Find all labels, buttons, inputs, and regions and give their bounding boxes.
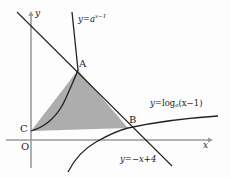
logarithm-equation-label: y=loga(x−1) (150, 99, 202, 109)
y-axis-label: y (35, 9, 40, 18)
log-eq-fn: log (162, 98, 175, 108)
exponential-equation-label: y=ax−1 (78, 14, 106, 24)
figure-canvas (0, 0, 230, 178)
log-eq-argument: (x−1) (179, 98, 203, 108)
log-eq-equals: = (155, 98, 162, 108)
point-label-a: A (79, 59, 86, 69)
point-label-c: C (20, 124, 28, 134)
exp-eq-equals: = (83, 14, 90, 24)
line-equation-label: y=−x+4 (120, 155, 156, 164)
x-axis-arrow-icon (208, 137, 213, 142)
exp-eq-exponent: x−1 (95, 13, 106, 19)
point-label-b: B (129, 115, 136, 125)
math-figure: y x O A B C y=ax−1 y=loga(x−1) y=−x+4 (0, 0, 230, 178)
x-axis-label: x (203, 141, 208, 150)
origin-label: O (21, 142, 29, 152)
shaded-triangle-abc (31, 70, 128, 131)
y-axis-arrow-icon (28, 11, 33, 16)
